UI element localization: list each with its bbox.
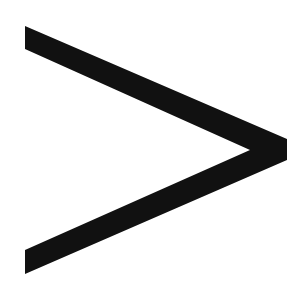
chevron-right-icon xyxy=(0,0,303,306)
greater-than-stroke xyxy=(25,26,287,274)
canvas: > xyxy=(0,0,303,306)
